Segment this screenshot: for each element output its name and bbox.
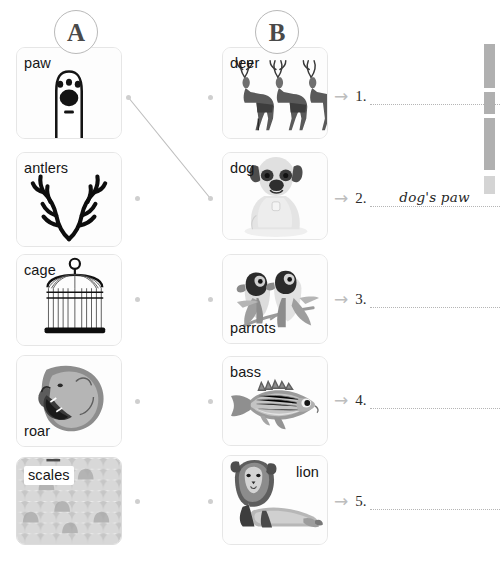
- connector-dot-left-5[interactable]: [135, 499, 140, 504]
- card-dog[interactable]: dog: [222, 152, 328, 240]
- arrow-icon: →: [334, 88, 348, 105]
- arrow-icon: →: [334, 291, 348, 308]
- answer-input-3[interactable]: [370, 292, 500, 308]
- card-paw[interactable]: paw: [16, 47, 122, 139]
- arrow-icon: →: [334, 493, 348, 510]
- card-label: lion: [296, 465, 319, 480]
- column-badge-a-letter: A: [67, 20, 85, 45]
- connector-dot-left-2[interactable]: [135, 196, 140, 201]
- answer-value: dog's paw: [370, 189, 500, 205]
- column-badge-a: A: [54, 10, 98, 54]
- card-scales[interactable]: scales: [16, 457, 122, 545]
- column-badge-b-letter: B: [269, 20, 286, 45]
- card-label: parrots: [230, 321, 276, 336]
- card-label: scales: [24, 466, 74, 485]
- scroll-artifact-1[interactable]: [484, 44, 495, 88]
- card-label: deer: [230, 56, 259, 71]
- answer-row-1: → 1.: [334, 88, 500, 105]
- card-label: dog: [230, 161, 255, 176]
- card-antlers[interactable]: antlers: [16, 152, 122, 247]
- connector-dot-left-4[interactable]: [135, 399, 140, 404]
- card-lion[interactable]: lion: [222, 455, 328, 545]
- card-label: bass: [230, 365, 261, 380]
- answer-row-5: → 5.: [334, 493, 500, 510]
- column-badge-b: B: [255, 10, 299, 54]
- card-parrots[interactable]: parrots: [222, 254, 328, 344]
- card-label: antlers: [24, 161, 68, 176]
- answer-number: 4.: [355, 392, 366, 409]
- scroll-artifact-4[interactable]: [484, 176, 495, 194]
- card-label: paw: [24, 56, 51, 71]
- arrow-icon: →: [334, 190, 348, 207]
- scroll-artifact-3[interactable]: [484, 118, 495, 170]
- answer-row-2: → 2. dog's paw: [334, 190, 500, 207]
- card-cage[interactable]: cage: [16, 254, 122, 346]
- card-bass[interactable]: bass: [222, 356, 328, 446]
- card-roar[interactable]: roar: [16, 355, 122, 447]
- answer-row-4: → 4.: [334, 392, 500, 409]
- connector-dot-left-1[interactable]: [126, 95, 131, 100]
- connector-dot-right-4[interactable]: [208, 399, 213, 404]
- card-label: cage: [24, 263, 56, 278]
- answer-input-2[interactable]: dog's paw: [370, 191, 500, 207]
- connector-dot-left-3[interactable]: [135, 297, 140, 302]
- answer-number: 1.: [355, 88, 366, 105]
- answer-number: 5.: [355, 493, 366, 510]
- connector-dot-right-2[interactable]: [208, 196, 213, 201]
- answer-input-5[interactable]: [370, 494, 500, 510]
- answer-row-3: → 3.: [334, 291, 500, 308]
- answer-input-1[interactable]: [370, 89, 500, 105]
- answer-input-4[interactable]: [370, 393, 500, 409]
- scroll-artifact-2[interactable]: [484, 92, 495, 114]
- card-label: roar: [24, 424, 50, 439]
- answer-number: 3.: [355, 291, 366, 308]
- card-deer[interactable]: deer: [222, 47, 328, 139]
- connector-dot-right-5[interactable]: [208, 499, 213, 504]
- arrow-icon: →: [334, 392, 348, 409]
- connector-dot-right-3[interactable]: [208, 297, 213, 302]
- answer-number: 2.: [355, 190, 366, 207]
- connector-dot-right-1[interactable]: [208, 95, 213, 100]
- connection-line-paw-dog[interactable]: [128, 97, 210, 198]
